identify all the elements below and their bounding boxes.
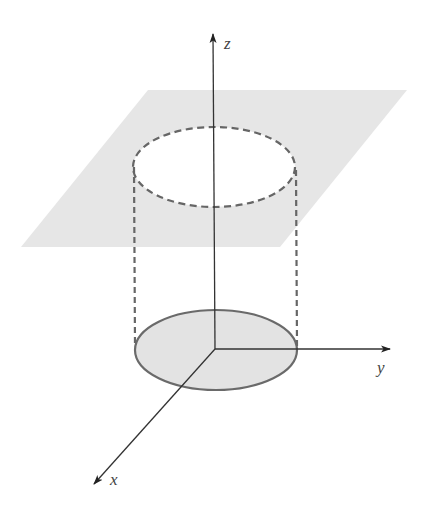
y-axis-label: y: [375, 358, 385, 377]
x-axis-label: x: [109, 470, 118, 489]
base-disk: [135, 310, 297, 390]
z-axis-label: z: [223, 34, 231, 53]
cylinder-projection-diagram: z y x: [0, 0, 427, 509]
